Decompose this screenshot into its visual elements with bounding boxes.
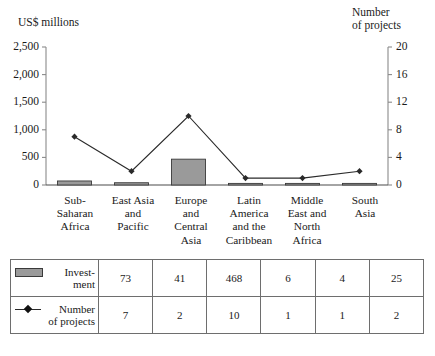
legend-label-1: Number of projects [44,303,95,328]
left-axis-tick-label: 500 [0,151,39,163]
bar-1 [115,183,149,185]
left-axis-tick-label: 2,500 [0,41,39,53]
left-axis-tick-label: 2,000 [0,69,39,81]
category-label-0: Sub- Saharan Africa [46,194,104,252]
left-axis-tick-label: 1,000 [0,124,39,136]
left-axis-tick-label: 1,500 [0,96,39,108]
gray-bar-swatch-icon [15,268,43,277]
category-label-2: Europe and Central Asia [162,194,220,252]
category-label-3: Latin America and the Caribbean [220,194,278,252]
bar-5 [343,183,377,185]
chart-figure: US$ millions Number of projects 05001,00… [0,0,435,356]
projects-marker-5 [356,168,362,174]
table-cell-r1-c4: 1 [315,297,369,334]
data-table: Invest- ment73414686425Number of project… [10,259,424,334]
projects-line [75,116,360,178]
plot-area: 05001,0001,5002,0002,500048121620 [0,0,435,195]
table-cell-r1-c5: 2 [369,297,423,334]
table-cell-r1-c0: 7 [99,297,153,334]
table-cell-r1-c2: 10 [207,297,261,334]
table-cell-r0-c4: 4 [315,260,369,297]
bar-0 [58,181,92,185]
table-cell-r0-c5: 25 [369,260,423,297]
bar-4 [286,183,320,185]
right-axis-tick-label: 16 [396,69,430,81]
left-axis-tick-label: 0 [0,179,39,191]
table-cell-r0-c0: 73 [99,260,153,297]
right-axis-tick-label: 4 [396,151,430,163]
plot-svg [0,0,435,195]
projects-marker-4 [299,175,305,181]
category-label-4: Middle East and North Africa [278,194,336,252]
table-row: Invest- ment73414686425 [11,260,424,297]
table-cell-r0-c1: 41 [153,260,207,297]
right-axis-tick-label: 0 [396,179,430,191]
projects-marker-0 [71,134,77,140]
category-label-1: East Asia and Pacific [104,194,162,252]
legend-cell-1: Number of projects [11,297,99,334]
bar-2 [172,159,206,185]
legend-label-0: Invest- ment [46,266,95,291]
right-axis-tick-label: 8 [396,124,430,136]
category-label-5: South Asia [336,194,394,252]
table-cell-r0-c2: 468 [207,260,261,297]
table-cell-r0-c3: 6 [261,260,315,297]
category-axis-labels: Sub- Saharan AfricaEast Asia and Pacific… [46,194,394,252]
table-row: Number of projects7210112 [11,297,424,334]
bar-3 [229,183,263,185]
line-marker-swatch-icon [15,305,41,315]
table-cell-r1-c1: 2 [153,297,207,334]
legend-cell-0: Invest- ment [11,260,99,297]
table-cell-r1-c3: 1 [261,297,315,334]
right-axis-tick-label: 12 [396,96,430,108]
right-axis-tick-label: 20 [396,41,430,53]
